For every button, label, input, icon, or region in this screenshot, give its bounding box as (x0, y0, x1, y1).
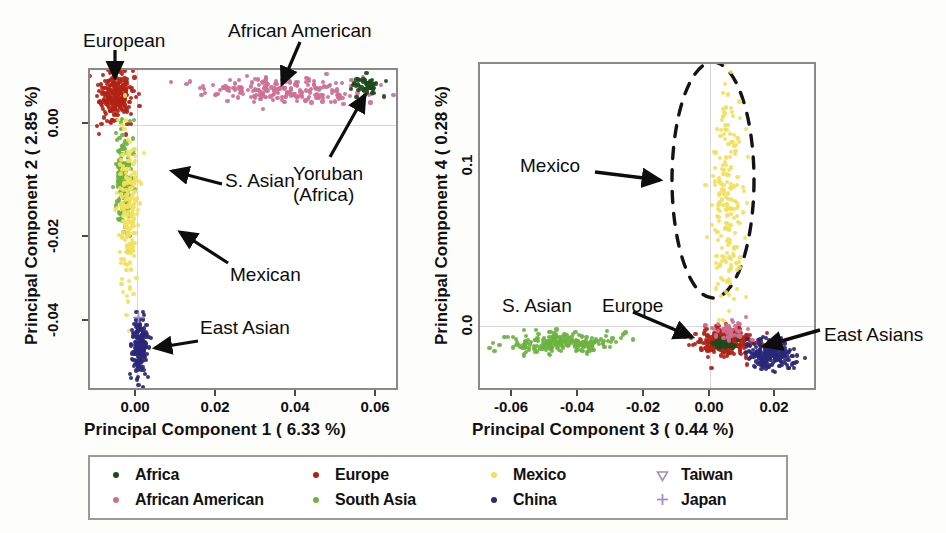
legend-entry[interactable]: Taiwan (654, 464, 824, 486)
x-tick-mark (294, 390, 296, 396)
data-point (123, 262, 127, 266)
data-point (103, 79, 107, 83)
data-point (722, 132, 726, 136)
data-point (744, 295, 748, 299)
data-point (604, 334, 608, 338)
data-point (716, 203, 720, 207)
data-point (745, 201, 749, 205)
data-point (134, 368, 138, 372)
legend-dot-icon (308, 467, 324, 483)
legend-entry[interactable]: South Asia (308, 489, 486, 511)
data-point (790, 354, 794, 358)
data-point (122, 257, 126, 261)
x-tick-label: 0.00 (120, 398, 149, 415)
plot-frame-left (88, 68, 398, 390)
legend-entry[interactable]: China (486, 489, 654, 511)
data-point (726, 142, 730, 146)
legend-entry[interactable]: African American (108, 489, 308, 511)
triangle-down-icon (654, 467, 670, 483)
legend-entry[interactable]: Japan (654, 489, 824, 511)
data-point (703, 183, 707, 187)
data-point (803, 356, 807, 360)
data-point (349, 87, 353, 91)
data-point (222, 86, 226, 90)
data-point (147, 345, 151, 349)
data-point (101, 107, 105, 111)
data-point (236, 95, 240, 99)
data-point (135, 212, 139, 216)
data-point (717, 219, 721, 223)
annot-east-asians-right: East Asians (824, 324, 923, 345)
data-point (214, 92, 218, 96)
data-point (736, 204, 740, 208)
data-point (554, 342, 558, 346)
data-point (491, 341, 495, 345)
data-point (228, 78, 232, 82)
data-point (544, 344, 548, 348)
data-point (300, 90, 304, 94)
data-point (712, 150, 716, 154)
data-point (723, 137, 727, 141)
data-point (575, 341, 579, 345)
legend-label: Japan (681, 491, 726, 509)
data-point (268, 94, 272, 98)
data-point (126, 299, 130, 303)
legend-entry[interactable]: Africa (108, 464, 308, 486)
data-point (723, 82, 727, 86)
data-point (218, 88, 222, 92)
data-point (766, 348, 770, 352)
data-point (737, 265, 741, 269)
annot-s-asian: S. Asian (225, 170, 295, 191)
data-point (114, 112, 118, 116)
data-point (384, 79, 388, 83)
data-point (744, 350, 748, 354)
data-point (131, 292, 135, 296)
data-point (759, 367, 763, 371)
data-point (110, 102, 114, 106)
data-point (720, 246, 724, 250)
data-point (786, 366, 790, 370)
data-point (589, 340, 593, 344)
data-point (792, 347, 796, 351)
data-point (128, 285, 132, 289)
data-point (733, 333, 737, 337)
legend-dot-icon (108, 492, 124, 508)
legend-dot-icon (108, 467, 124, 483)
data-point (356, 77, 360, 81)
x-tick-label: 0.00 (694, 398, 723, 415)
data-point (727, 268, 731, 272)
legend-dot-icon (486, 467, 502, 483)
data-point (733, 152, 737, 156)
data-point (709, 366, 713, 370)
legend-entry[interactable]: Mexico (486, 464, 654, 486)
legend-label: South Asia (335, 491, 416, 509)
data-point (333, 99, 337, 103)
data-point (122, 181, 126, 185)
x-axis-title-right: Principal Component 3 ( 0.44 %) (472, 420, 734, 440)
data-point (746, 327, 750, 331)
y-axis-title-left: Principal Component 2 ( 2.85 %) (22, 86, 42, 345)
data-point (269, 85, 273, 89)
data-point (732, 352, 736, 356)
data-point (742, 189, 746, 193)
data-point (726, 191, 730, 195)
data-point (728, 132, 732, 136)
data-point (102, 115, 106, 119)
legend-label: China (513, 491, 556, 509)
data-point (237, 78, 241, 82)
data-point (717, 176, 721, 180)
data-point (382, 94, 386, 98)
legend-entry[interactable]: Europe (308, 464, 486, 486)
data-point (765, 331, 769, 335)
scatter-area-left (90, 70, 396, 388)
data-point (731, 114, 735, 118)
data-point (137, 104, 141, 108)
data-point (795, 353, 799, 357)
data-point (623, 330, 627, 334)
data-point (746, 155, 750, 159)
data-point (143, 372, 147, 376)
data-point (580, 349, 584, 353)
data-point (138, 201, 142, 205)
x-tick-mark (374, 390, 376, 396)
x-tick-mark (134, 390, 136, 396)
